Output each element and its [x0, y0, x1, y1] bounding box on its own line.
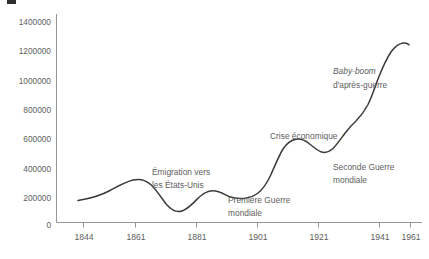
annotation-baby-boom: Baby-boom d'après-guerre — [333, 66, 388, 90]
y-tick-label: 200000 — [23, 193, 51, 203]
x-tick-label: 1921 — [309, 232, 328, 242]
chart-axes — [57, 14, 423, 223]
y-tick-label: 800000 — [23, 105, 51, 115]
annotation-line: Crise économique — [270, 131, 338, 141]
annotation-line: Première Guerre — [228, 195, 291, 205]
annotation-line: mondiale — [333, 175, 367, 185]
annotation-emigration: Émigration vers les États-Unis — [152, 167, 210, 190]
annotation-line: mondiale — [228, 208, 262, 218]
x-tick-label: 1881 — [187, 232, 206, 242]
y-tick-label: 400000 — [23, 164, 51, 174]
y-tick-label: 0 — [46, 220, 51, 230]
y-tick-label: 1200000 — [19, 46, 52, 56]
x-axis-tick-marks — [84, 223, 411, 228]
y-tick-label: 600000 — [23, 134, 51, 144]
x-tick-label: 1901 — [248, 232, 267, 242]
y-tick-label: 1000000 — [19, 76, 52, 86]
population-line-chart: 1400000 1200000 1000000 800000 600000 40… — [0, 0, 429, 259]
annotation-crise-economique: Crise économique — [270, 131, 338, 141]
annotation-line: d'après-guerre — [333, 80, 388, 90]
annotation-line: les États-Unis — [152, 180, 204, 190]
annotation-line: Baby-boom — [333, 66, 376, 76]
chart-figure: 1400000 1200000 1000000 800000 600000 40… — [0, 0, 429, 259]
annotation-line: Seconde Guerre — [333, 162, 395, 172]
annotation-premiere-guerre: Première Guerre mondiale — [228, 195, 291, 218]
x-tick-label: 1844 — [74, 232, 93, 242]
x-axis-tick-labels: 1844 1861 1881 1901 1921 1941 1961 — [74, 232, 420, 242]
x-tick-label: 1941 — [370, 232, 389, 242]
x-tick-label: 1961 — [401, 232, 420, 242]
y-tick-label: 1400000 — [19, 17, 52, 27]
annotation-line: Émigration vers — [152, 167, 210, 177]
annotation-seconde-guerre: Seconde Guerre mondiale — [333, 162, 395, 185]
cropped-text-artifact — [7, 0, 16, 4]
y-axis-tick-labels: 1400000 1200000 1000000 800000 600000 40… — [19, 17, 52, 230]
x-tick-label: 1861 — [126, 232, 145, 242]
